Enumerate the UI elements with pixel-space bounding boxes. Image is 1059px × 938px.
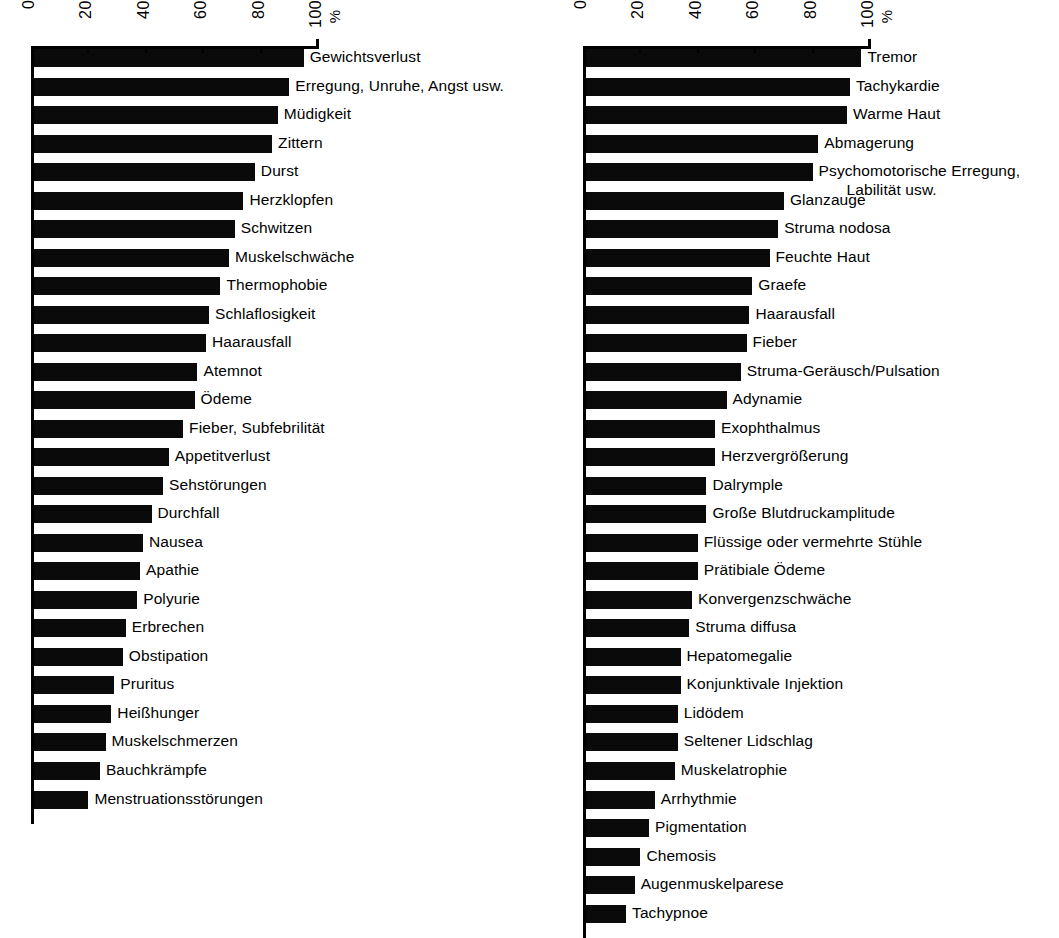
- bar-row: Appetitverlust: [0, 448, 530, 466]
- bar: [31, 106, 278, 124]
- bar-row: Tremor: [552, 49, 1059, 67]
- bar-row: Psychomotorische Erregung,Labilität usw.: [552, 163, 1059, 181]
- x-axis-tick: [639, 46, 641, 53]
- bar-label: Tachykardie: [856, 76, 940, 96]
- bar-label: Muskelschmerzen: [112, 731, 238, 751]
- x-axis-tick: [812, 46, 814, 53]
- bar-label: Durst: [261, 161, 299, 181]
- x-axis-tick: [697, 46, 699, 53]
- bar-label: Muskelatrophie: [681, 760, 788, 780]
- bar-label: Schlaflosigkeit: [215, 304, 316, 324]
- bar: [583, 420, 715, 438]
- bar-row: Thermophobie: [0, 277, 530, 295]
- bar-label: Augenmuskelparese: [641, 874, 784, 894]
- bar-label: Polyurie: [143, 589, 200, 609]
- bar-label: Menstruationsstörungen: [94, 789, 263, 809]
- bar: [583, 49, 861, 67]
- bar: [583, 876, 635, 894]
- bar: [583, 306, 749, 324]
- bar-label: Ödeme: [201, 389, 252, 409]
- bar: [583, 477, 706, 495]
- bar-label: Struma-Geräusch/Pulsation: [747, 361, 940, 381]
- bar: [31, 534, 143, 552]
- bar-label: Hepatomegalie: [687, 646, 793, 666]
- bar: [31, 78, 289, 96]
- bar: [583, 819, 649, 837]
- x-axis-unit-label: %: [878, 10, 895, 23]
- bar-row: Muskelschmerzen: [0, 733, 530, 751]
- x-axis-tick-label: 60: [181, 0, 225, 40]
- bar: [31, 334, 206, 352]
- bar-row: Augenmuskelparese: [552, 876, 1059, 894]
- bar-label: Muskelschwäche: [235, 247, 354, 267]
- bar-row: Tachykardie: [552, 78, 1059, 96]
- x-axis-tick: [145, 46, 147, 53]
- bar-row: Fieber: [552, 334, 1059, 352]
- bar: [31, 448, 169, 466]
- bar-row: Hepatomegalie: [552, 648, 1059, 666]
- x-axis-tick: [754, 46, 756, 53]
- bar-label: Heißhunger: [117, 703, 199, 723]
- bar-row: Lidödem: [552, 705, 1059, 723]
- bar-label: Atemnot: [203, 361, 261, 381]
- bar-label: Fieber, Subfebrilität: [189, 418, 325, 438]
- bar: [31, 363, 197, 381]
- bar-label: Obstipation: [129, 646, 209, 666]
- bar: [583, 163, 813, 181]
- bar-label: Erbrechen: [132, 617, 204, 637]
- bar: [31, 562, 140, 580]
- bar: [583, 334, 747, 352]
- x-axis-tick-label: 80: [239, 0, 283, 40]
- bar-label: Apathie: [146, 560, 199, 580]
- bar: [583, 192, 784, 210]
- bar: [583, 591, 692, 609]
- bar-row: Atemnot: [0, 363, 530, 381]
- bar-label: Sehstörungen: [169, 475, 267, 495]
- bar-label: Fieber: [753, 332, 798, 352]
- bar: [31, 733, 106, 751]
- bar-label: Dalrymple: [712, 475, 783, 495]
- bar: [583, 448, 715, 466]
- bar-label: Struma diffusa: [695, 617, 796, 637]
- bar-row: Bauchkrämpfe: [0, 762, 530, 780]
- x-axis-tick-label: 40: [124, 0, 168, 40]
- bar: [31, 163, 255, 181]
- bar-label: Gewichtsverlust: [310, 47, 421, 67]
- bar: [583, 848, 640, 866]
- bar-label: Haarausfall: [755, 304, 835, 324]
- bar: [583, 562, 698, 580]
- bar-row: Sehstörungen: [0, 477, 530, 495]
- bar: [31, 135, 272, 153]
- x-axis-tick-label: 20: [618, 0, 662, 40]
- bar-label: Seltener Lidschlag: [684, 731, 813, 751]
- bar-row: Durchfall: [0, 505, 530, 523]
- bar-row: Schlaflosigkeit: [0, 306, 530, 324]
- bar-label: Exophthalmus: [721, 418, 820, 438]
- chart-panel-left: GewichtsverlustErregung, Unruhe, Angst u…: [0, 0, 530, 918]
- bar: [583, 78, 850, 96]
- bar-row: Muskelatrophie: [552, 762, 1059, 780]
- bar: [31, 762, 100, 780]
- bar-label: Durchfall: [158, 503, 220, 523]
- bar-label: Struma nodosa: [784, 218, 890, 238]
- bar: [583, 676, 681, 694]
- bar-row: Ödeme: [0, 391, 530, 409]
- x-axis-tick-label: 40: [676, 0, 720, 40]
- bar-row: Erregung, Unruhe, Angst usw.: [0, 78, 530, 96]
- x-axis-tick-label: 60: [733, 0, 777, 40]
- bar-row: Polyurie: [0, 591, 530, 609]
- bar-label: Herzklopfen: [249, 190, 333, 210]
- bar: [31, 705, 111, 723]
- x-axis-line: [583, 46, 870, 49]
- bar-row: Seltener Lidschlag: [552, 733, 1059, 751]
- bar-row: Tachypnoe: [552, 905, 1059, 923]
- bar-label: Pigmentation: [655, 817, 747, 837]
- bar-row: Fieber, Subfebrilität: [0, 420, 530, 438]
- bar-row: Feuchte Haut: [552, 249, 1059, 267]
- bar: [583, 705, 678, 723]
- x-axis-endcap: [868, 39, 871, 49]
- bar-row: Muskelschwäche: [0, 249, 530, 267]
- bar-label: Erregung, Unruhe, Angst usw.: [295, 76, 504, 96]
- bar-label: Haarausfall: [212, 332, 292, 352]
